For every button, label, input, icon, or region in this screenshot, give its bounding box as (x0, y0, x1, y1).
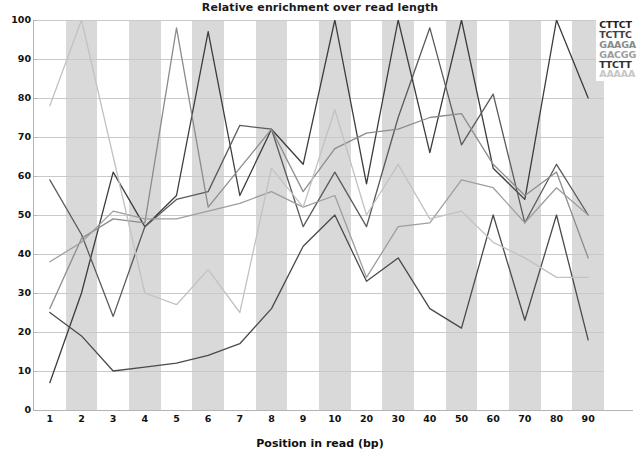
series-line-ttctt (50, 215, 588, 371)
series-lines (34, 20, 604, 410)
y-axis-tick: 30 (3, 287, 31, 298)
y-axis-tick-mark (33, 98, 37, 99)
y-axis-tick: 10 (3, 365, 31, 376)
x-axis-tick: 9 (300, 413, 307, 424)
x-axis-tick: 40 (423, 413, 436, 424)
y-axis-tick: 80 (3, 92, 31, 103)
x-axis-line (33, 410, 633, 411)
y-axis-tick-mark (33, 254, 37, 255)
y-axis-tick-mark (33, 371, 37, 372)
y-axis-tick-mark (33, 332, 37, 333)
y-axis-tick-mark (33, 293, 37, 294)
x-axis-tick: 10 (328, 413, 341, 424)
y-axis-tick: 100 (3, 14, 31, 25)
x-axis-tick: 8 (268, 413, 275, 424)
legend-item-aaaaa[interactable]: AAAAA (599, 69, 636, 79)
y-axis-tick: 20 (3, 326, 31, 337)
x-axis-tick: 50 (455, 413, 468, 424)
y-axis-tick-mark (33, 20, 37, 21)
plot-area (34, 20, 604, 410)
y-axis-tick: 90 (3, 53, 31, 64)
x-axis-tick: 20 (360, 413, 373, 424)
x-axis-tick: 7 (237, 413, 244, 424)
y-axis-tick-mark (33, 137, 37, 138)
x-axis-label: Position in read (bp) (0, 437, 640, 450)
kmer-content-chart: Relative enrichment over read length 010… (0, 0, 640, 461)
x-axis-tick: 2 (78, 413, 85, 424)
y-axis-tick: 70 (3, 131, 31, 142)
x-axis-tick: 3 (110, 413, 117, 424)
y-axis-tick: 40 (3, 248, 31, 259)
page-title: Relative enrichment over read length (0, 1, 640, 14)
y-axis-tick-mark (33, 215, 37, 216)
x-axis-tick: 4 (142, 413, 149, 424)
x-axis-tick: 90 (582, 413, 595, 424)
x-axis-tick-labels: 123456789102030405060708090 (0, 413, 640, 429)
y-axis-tick-mark (33, 176, 37, 177)
x-axis-tick: 1 (47, 413, 54, 424)
legend: CTTCTTCTTCGAAGAGACGGTTCTTAAAAA (596, 19, 638, 81)
y-axis-tick-labels: 0102030405060708090100 (0, 0, 31, 461)
x-axis-tick: 60 (487, 413, 500, 424)
y-axis-tick-mark (33, 410, 37, 411)
x-axis-tick: 30 (392, 413, 405, 424)
y-axis-tick-mark (33, 59, 37, 60)
x-axis-tick: 5 (173, 413, 180, 424)
x-axis-tick: 80 (550, 413, 563, 424)
x-axis-tick: 6 (205, 413, 212, 424)
series-line-tcttc (50, 28, 588, 317)
x-axis-tick: 70 (518, 413, 531, 424)
y-axis-tick: 60 (3, 170, 31, 181)
y-axis-tick: 50 (3, 209, 31, 220)
